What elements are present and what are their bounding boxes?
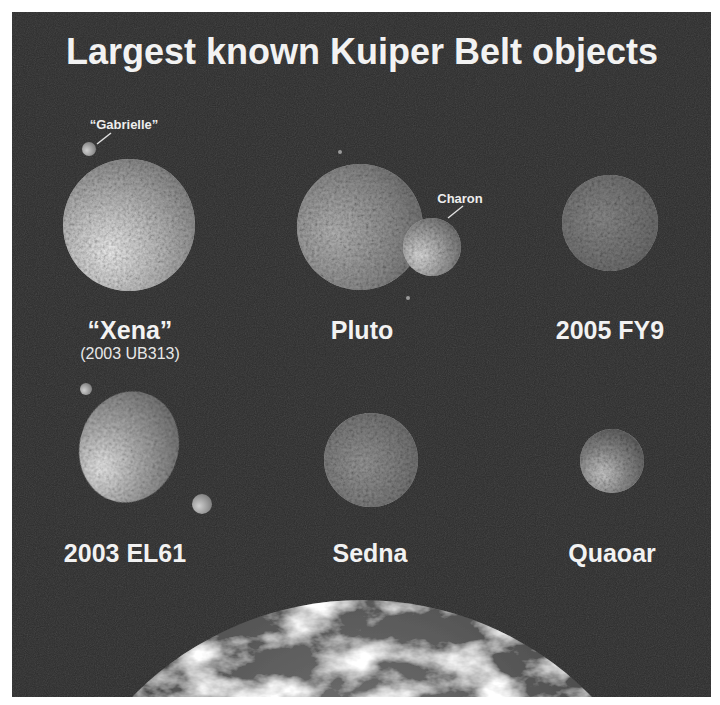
pluto-body [297, 164, 423, 290]
gabrielle-label: “Gabrielle” [90, 118, 159, 131]
fy9-body [562, 175, 658, 271]
pluto-small-moon-1 [338, 150, 342, 154]
sedna-label: Sedna [332, 541, 407, 566]
pluto-label: Pluto [331, 318, 394, 343]
el61-moon-2 [192, 494, 212, 514]
quaoar-body [580, 429, 644, 493]
fy9-label: 2005 FY9 [556, 318, 664, 343]
el61-label: 2003 EL61 [64, 541, 186, 566]
charon-label: Charon [437, 192, 483, 205]
xena-label: “Xena” [88, 318, 173, 343]
xena-body [63, 159, 195, 291]
el61-moon-1 [80, 383, 92, 395]
quaoar-label: Quaoar [568, 541, 656, 566]
sedna-body [324, 413, 418, 507]
image-panel: Largest known Kuiper Belt objects “Gabri… [12, 12, 711, 697]
xena-subtitle: (2003 UB313) [80, 346, 180, 362]
page-title: Largest known Kuiper Belt objects [66, 34, 658, 70]
pluto-small-moon-2 [406, 296, 410, 300]
